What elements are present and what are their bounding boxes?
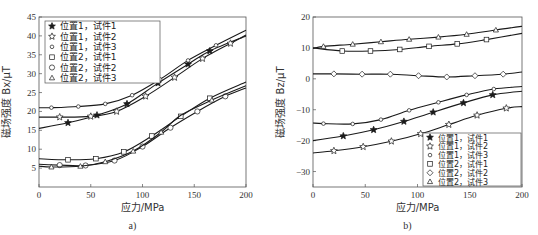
data-series xyxy=(39,88,246,168)
y-tick-label: 25 xyxy=(27,88,37,98)
y-axis-label: 磁场强度 Bz/μT xyxy=(274,66,286,138)
circle-small-marker xyxy=(437,101,441,105)
y-tick-label: 15 xyxy=(27,125,37,135)
x-tick-label: 50 xyxy=(361,190,371,200)
circle-small-marker xyxy=(428,153,432,157)
legend-label: 位置1，试件3 xyxy=(60,41,116,52)
square-marker xyxy=(428,162,433,167)
legend-label: 位置2，试件1 xyxy=(438,159,488,169)
circle-small-marker xyxy=(214,44,218,48)
x-tick-label: 150 xyxy=(188,190,202,200)
legend-label: 位置1，试件1 xyxy=(438,133,488,143)
star-open-marker xyxy=(113,108,120,115)
legend-label: 位置1，试件2 xyxy=(60,31,116,42)
legend-item: 位置2，试件2 xyxy=(49,62,116,73)
star-filled-marker xyxy=(401,118,408,125)
star-open-marker xyxy=(445,121,452,128)
legend-label: 位置2，试件3 xyxy=(438,177,488,187)
legend-item: 位置1，试件3 xyxy=(50,41,116,52)
star-open-marker xyxy=(56,114,63,121)
star-open-marker xyxy=(503,105,510,112)
legend-label: 位置2，试件2 xyxy=(438,168,488,178)
legend-label: 位置1，试件2 xyxy=(438,141,488,151)
star-filled-marker xyxy=(340,132,347,139)
y-tick-label: 20 xyxy=(301,12,311,22)
x-axis-label: 应力/MPa xyxy=(121,201,165,213)
diamond-marker xyxy=(359,71,365,77)
figure-two-panel-chart: 05010015020051015202530354045应力/MPa磁场强度 … xyxy=(0,0,538,235)
chart-panel-a: 05010015020051015202530354045应力/MPa磁场强度 … xyxy=(0,12,253,232)
legend-label: 位置2，试件2 xyxy=(60,62,116,73)
diamond-marker xyxy=(500,71,506,77)
data-series xyxy=(313,26,522,48)
diamond-marker xyxy=(472,73,478,79)
y-tick-label: −20 xyxy=(296,136,311,146)
legend-label: 位置2，试件3 xyxy=(60,72,116,83)
diamond-marker xyxy=(331,71,337,77)
circle-small-marker xyxy=(186,59,190,63)
legend-label: 位置1，试件1 xyxy=(60,20,116,31)
circle-small-marker xyxy=(322,122,326,126)
circle-small-marker xyxy=(465,93,469,97)
circle-small-marker xyxy=(351,122,355,126)
square-marker xyxy=(340,49,345,54)
data-series xyxy=(313,87,522,126)
x-axis-label: 应力/MPa xyxy=(396,201,440,213)
y-tick-label: 40 xyxy=(27,31,37,41)
star-open-marker xyxy=(474,112,481,119)
square-marker xyxy=(368,49,373,54)
square-marker xyxy=(427,44,432,49)
data-series xyxy=(313,71,522,80)
x-tick-label: 200 xyxy=(515,190,529,200)
star-filled-marker xyxy=(370,126,377,133)
chart-panel-b: 050100150200−30−20−1001020应力/MPa磁场强度 Bz/… xyxy=(274,12,529,232)
star-open-marker xyxy=(360,143,367,150)
legend-item: 位置1，试件3 xyxy=(428,150,488,160)
x-tick-label: 0 xyxy=(311,190,316,200)
y-tick-label: −30 xyxy=(296,167,311,177)
diamond-marker xyxy=(444,74,450,80)
panel-caption: a) xyxy=(129,220,137,232)
panel-caption: b) xyxy=(403,220,411,232)
circle-small-marker xyxy=(407,109,411,113)
y-tick-label: 0 xyxy=(306,74,311,84)
circle-marker xyxy=(195,109,200,114)
diamond-marker xyxy=(416,73,422,79)
series-line xyxy=(313,26,522,48)
x-tick-label: 100 xyxy=(136,190,150,200)
legend: 位置1，试件1位置1，试件2位置1，试件3位置2，试件1位置2，试件2位置2，试… xyxy=(423,133,521,187)
star-open-marker xyxy=(388,138,395,145)
square-marker xyxy=(484,37,489,42)
star-open-marker xyxy=(331,147,338,154)
y-tick-label: 10 xyxy=(27,144,37,154)
y-tick-label: 45 xyxy=(27,12,37,22)
legend-label: 位置2，试件1 xyxy=(60,51,116,62)
legend-label: 位置1，试件3 xyxy=(438,150,488,160)
star-filled-marker xyxy=(489,91,496,98)
square-marker xyxy=(94,156,99,161)
circle-small-marker xyxy=(77,105,81,109)
circle-small-marker xyxy=(50,106,54,110)
legend-item: 位置2，试件1 xyxy=(50,51,117,62)
circle-marker xyxy=(49,65,54,70)
diamond-marker xyxy=(387,71,393,77)
circle-small-marker xyxy=(379,118,383,122)
circle-small-marker xyxy=(130,93,134,97)
square-marker xyxy=(397,47,402,52)
square-marker xyxy=(66,158,71,163)
x-tick-label: 100 xyxy=(411,190,425,200)
legend: 位置1，试件1位置1，试件2位置1，试件3位置2，试件1位置2，试件2位置2，试… xyxy=(45,20,160,83)
star-filled-marker xyxy=(65,119,72,126)
y-tick-label: 5 xyxy=(32,163,37,173)
x-tick-label: 200 xyxy=(239,190,253,200)
star-filled-marker xyxy=(460,99,467,106)
circle-small-marker xyxy=(103,102,107,106)
y-tick-label: 30 xyxy=(27,69,37,79)
y-tick-label: 20 xyxy=(27,106,37,116)
square-marker xyxy=(50,55,55,60)
data-series xyxy=(313,33,522,53)
square-marker xyxy=(455,42,460,47)
series-line xyxy=(313,87,522,125)
legend-item: 位置2，试件3 xyxy=(49,72,116,83)
circle-small-marker xyxy=(492,87,496,91)
